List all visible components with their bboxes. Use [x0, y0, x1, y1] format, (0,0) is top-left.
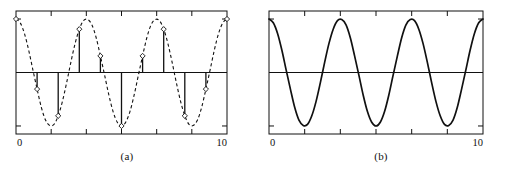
sample-marker	[161, 27, 166, 32]
sample-marker	[119, 123, 124, 128]
sample-marker	[140, 53, 145, 58]
plot-a-svg: 0 10	[0, 0, 254, 146]
plot-a-xtick-label-right: 10	[217, 137, 228, 146]
figure-sampled-sinusoid: 0 10 (a) 0 10 (b)	[0, 0, 508, 172]
panel-a: 0 10 (a)	[0, 0, 254, 172]
plot-b-svg: 0 10	[254, 0, 508, 146]
panel-b-caption: (b)	[254, 150, 508, 162]
sample-marker	[98, 53, 103, 58]
sample-marker	[35, 86, 40, 91]
plot-a-stems	[37, 29, 206, 126]
plot-b-xtick-label-left: 0	[270, 137, 275, 146]
panel-b: 0 10 (b)	[254, 0, 508, 172]
panel-a-caption: (a)	[0, 150, 254, 162]
sample-marker	[56, 113, 61, 118]
sample-marker	[182, 113, 187, 118]
plot-a-xtick-label-left: 0	[17, 137, 22, 146]
sample-marker	[77, 27, 82, 32]
plot-b-xtick-label-right: 10	[473, 137, 484, 146]
sample-marker	[203, 86, 208, 91]
